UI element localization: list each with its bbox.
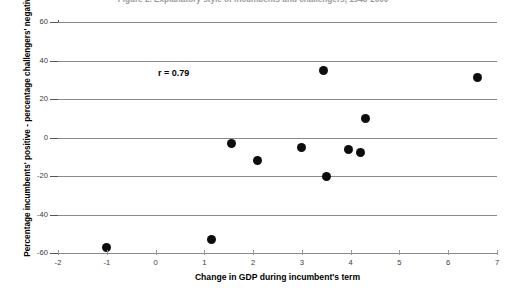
x-axis-tick-label: 5 [387,258,411,267]
x-axis-tick-label: -2 [46,258,70,267]
gridline [58,138,497,139]
y-axis-tick-label: 40 [8,57,48,65]
data-point [253,156,262,165]
y-axis-tick-label: -20 [8,172,48,180]
x-axis-tick [399,250,400,255]
y-axis-tick-label: 0 [8,134,48,142]
data-point [361,114,370,123]
y-axis-tick [50,61,58,62]
x-axis-tick [351,250,352,255]
x-axis-tick-label: 1 [192,258,216,267]
correlation-annotation: r = 0.79 [158,68,189,78]
y-axis-tick [50,215,58,216]
y-axis-tick-label: -40 [8,211,48,219]
plot-area [58,22,497,253]
data-point [322,172,331,181]
y-axis-tick-label: 20 [8,95,48,103]
data-point [319,66,328,75]
y-axis-tick-label: 60 [8,18,48,26]
x-axis-tick [156,250,157,255]
gridline [58,176,497,177]
x-axis-tick-label: 3 [290,258,314,267]
gridline [58,99,497,100]
x-axis-tick [58,250,59,255]
data-point [207,235,216,244]
y-axis-tick [50,176,58,177]
x-axis-tick [302,250,303,255]
data-point [297,143,306,152]
x-axis-tick [253,250,254,255]
gridline [58,253,497,254]
data-point [356,148,365,157]
y-axis-tick [50,253,58,254]
y-axis-tick-label: -60 [8,249,48,257]
gridline [58,22,497,23]
gridline [58,215,497,216]
x-axis-tick-label: 4 [339,258,363,267]
data-point [227,139,236,148]
scatter-chart: Figure 2. Explanatory style of incumbent… [0,0,506,301]
x-axis-tick-label: 0 [144,258,168,267]
y-axis-title: Percentage incumbents' positive - percen… [23,0,33,259]
x-axis-tick-label: -1 [95,258,119,267]
data-point [473,73,482,82]
y-axis-tick [50,138,58,139]
y-axis-tick [50,99,58,100]
x-axis-tick-label: 7 [485,258,506,267]
chart-title: Figure 2. Explanatory style of incumbent… [0,0,506,4]
x-axis-title: Change in GDP during incumbent's term [58,272,497,282]
x-axis-tick [107,250,108,255]
x-axis-tick-label: 6 [436,258,460,267]
x-axis-tick [448,250,449,255]
x-axis-tick-label: 2 [241,258,265,267]
x-axis-tick [497,250,498,255]
data-point [344,145,353,154]
x-axis-tick [204,250,205,255]
y-axis-tick [50,22,58,23]
gridline [58,61,497,62]
